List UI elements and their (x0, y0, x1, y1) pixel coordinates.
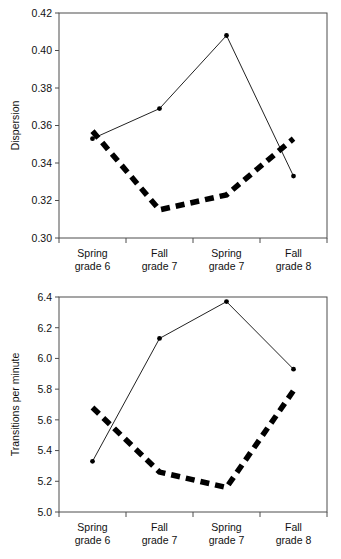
chart-dispersion: 0.300.320.340.360.380.400.42Springgrade … (0, 0, 341, 280)
dispersion-plot: 0.300.320.340.360.380.400.42Springgrade … (0, 0, 341, 280)
solid-series-line (93, 36, 294, 177)
y-tick-label: 5.0 (37, 506, 52, 518)
x-category-label: Spring (77, 247, 108, 259)
transitions-plot: 5.05.25.45.65.86.06.26.4Springgrade 6Fal… (0, 280, 341, 559)
x-category-label: Spring (211, 521, 242, 533)
y-tick-label: 0.36 (32, 119, 53, 131)
data-point-marker (224, 299, 229, 304)
y-tick-label: 5.2 (37, 475, 52, 487)
x-category-label: Spring (77, 521, 108, 533)
y-tick-label: 6.2 (37, 322, 52, 334)
x-category-label: Fall (285, 521, 302, 533)
data-point-marker (291, 367, 296, 372)
y-tick-label: 0.40 (32, 44, 53, 56)
x-category-label: grade 8 (276, 534, 312, 546)
y-tick-label: 0.42 (32, 7, 53, 19)
y-tick-label: 0.30 (32, 232, 53, 244)
chart-transitions: 5.05.25.45.65.86.06.26.4Springgrade 6Fal… (0, 280, 341, 559)
dashed-series-line (93, 131, 294, 210)
data-point-marker (291, 174, 296, 179)
y-axis-title: Dispersion (9, 101, 21, 151)
x-category-label: grade 7 (209, 260, 245, 272)
y-tick-label: 5.4 (37, 444, 52, 456)
y-tick-label: 6.4 (37, 291, 52, 303)
x-category-label: grade 7 (142, 534, 178, 546)
y-tick-label: 0.38 (32, 82, 53, 94)
x-category-label: Fall (285, 247, 302, 259)
y-tick-label: 0.34 (32, 157, 53, 169)
x-category-label: grade 7 (209, 534, 245, 546)
x-category-label: Fall (151, 247, 168, 259)
y-tick-label: 5.8 (37, 383, 52, 395)
y-tick-label: 0.32 (32, 194, 53, 206)
data-point-marker (157, 336, 162, 341)
y-tick-label: 5.6 (37, 414, 52, 426)
y-tick-label: 6.0 (37, 352, 52, 364)
solid-series-line (93, 302, 294, 462)
x-category-label: grade 8 (276, 260, 312, 272)
x-category-label: grade 6 (75, 534, 111, 546)
y-axis-title: Transitions per minute (9, 353, 21, 457)
x-category-label: grade 6 (75, 260, 111, 272)
x-category-label: Fall (151, 521, 168, 533)
data-point-marker (90, 459, 95, 464)
x-category-label: grade 7 (142, 260, 178, 272)
data-point-marker (157, 106, 162, 111)
data-point-marker (224, 33, 229, 38)
x-category-label: Spring (211, 247, 242, 259)
